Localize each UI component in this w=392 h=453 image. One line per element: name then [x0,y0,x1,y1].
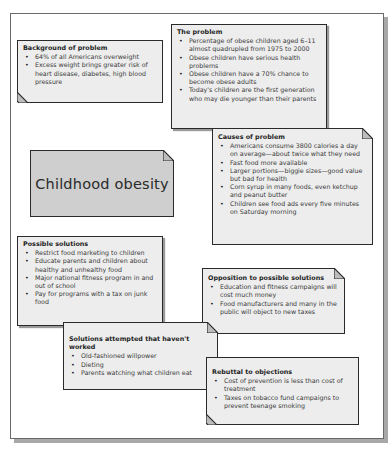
list-item: Americans consume 3800 calories a day on… [218,142,366,158]
bullet-list: Education and fitness campaigns will cos… [208,283,338,316]
bullet-list: Cost of prevention is less than cost of … [212,377,352,410]
list-item: Dieting [69,361,211,369]
list-item: Major national fitness program in and ou… [23,274,156,290]
note-rebuttal: Rebuttal to objections Cost of preventio… [206,357,359,425]
note-the-problem: The problem Percentage of obese children… [171,24,327,129]
bullet-list: Americans consume 3800 calories a day on… [218,142,366,216]
note-background-of-problem: Background of problem 64% of all America… [17,40,163,103]
list-item: Food manufacturers and many in the publi… [208,300,338,316]
bullet-list: Percentage of obese children aged 6–11 a… [177,37,320,103]
list-item: Today's children are the first generatio… [177,86,320,102]
bullet-list: Restrict food marketing to children Educ… [23,249,156,306]
list-item: Obese children have serious health probl… [177,54,320,70]
list-item: Fast food more available [218,159,366,167]
central-topic: Childhood obesity [30,150,174,217]
note-causes-of-problem: Causes of problem Americans consume 3800… [212,128,373,245]
list-item: Pay for programs with a tax on junk food [23,290,156,306]
note-heading: The problem [177,28,320,36]
note-solutions-attempted: Solutions attempted that haven't worked … [63,322,218,390]
list-item: Cost of prevention is less than cost of … [212,377,352,393]
list-item: Restrict food marketing to children [23,249,156,257]
note-heading: Possible solutions [23,240,156,248]
list-item: Parents watching what children eat [69,369,211,377]
list-item: Taxes on tobacco fund campaigns to preve… [212,394,352,410]
note-heading: Causes of problem [218,133,366,141]
list-item: Corn syrup in many foods, even ketchup a… [218,183,366,199]
list-item: Larger portions—biggie sizes—good value … [218,167,366,183]
central-topic-title: Childhood obesity [35,176,169,192]
list-item: 64% of all Americans overweight [23,53,156,61]
bullet-list: 64% of all Americans overweight Excess w… [23,53,156,86]
list-item: Excess weight brings greater risk of hea… [23,61,156,86]
note-heading: Solutions attempted that haven't worked [69,335,211,351]
list-item: Old-fashioned willpower [69,352,211,360]
note-heading: Rebuttal to objections [212,368,352,376]
list-item: Percentage of obese children aged 6–11 a… [177,37,320,53]
note-heading: Opposition to possible solutions [208,274,338,282]
note-heading: Background of problem [23,44,156,52]
list-item: Educate parents and children about healt… [23,257,156,273]
note-possible-solutions: Possible solutions Restrict food marketi… [17,236,163,326]
bullet-list: Old-fashioned willpower Dieting Parents … [69,352,211,377]
list-item: Obese children have a 70% chance to beco… [177,70,320,86]
note-opposition: Opposition to possible solutions Educati… [202,268,345,334]
list-item: Children see food ads every five minutes… [218,200,366,216]
list-item: Education and fitness campaigns will cos… [208,283,338,299]
